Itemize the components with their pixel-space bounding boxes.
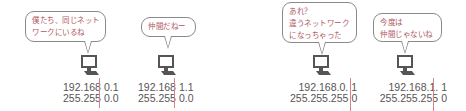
subnet-mask: 255.255.2550 [379, 93, 447, 104]
subnet-mask: 255.255.2550 [290, 93, 357, 104]
desktop-computer-icon [156, 54, 178, 76]
network-host-divider [350, 78, 351, 111]
speech-line: ワークにいるね [32, 27, 99, 39]
speech-bubble: あれ？ 違うネットワーク になっちゃった [282, 2, 357, 43]
subnet-mask: 255.2550.0 [63, 93, 119, 104]
speech-bubble: 仲間だねー [141, 17, 196, 37]
speech-line: あれ？ [289, 6, 350, 18]
network-host-divider [433, 78, 434, 111]
speech-line: 僕たち、同じネット [32, 15, 99, 27]
address-block: 192.168.0.1 255.255.2550 [290, 82, 357, 104]
speech-bubble: 今度は 仲間じゃないね [373, 13, 442, 42]
desktop-computer-icon [79, 54, 101, 76]
address-block: 192.168.1.1 255.255.2550 [379, 82, 447, 104]
speech-line: になっちゃった [289, 30, 350, 42]
speech-line: 違うネットワーク [289, 18, 350, 30]
network-host-divider [174, 78, 175, 108]
desktop-computer-icon [311, 54, 333, 76]
speech-line: 今度は [380, 17, 435, 29]
speech-bubble: 僕たち、同じネット ワークにいるね [25, 11, 106, 42]
address-block: 192.1680.1 255.2550.0 [63, 82, 119, 104]
speech-line: 仲間だねー [148, 21, 189, 33]
network-host-divider [99, 78, 100, 108]
speech-line: 仲間じゃないね [380, 29, 435, 41]
address-block: 192.1681.1 255.2550.0 [138, 82, 194, 104]
desktop-computer-icon [395, 54, 417, 76]
subnet-mask: 255.2550.0 [138, 93, 194, 104]
